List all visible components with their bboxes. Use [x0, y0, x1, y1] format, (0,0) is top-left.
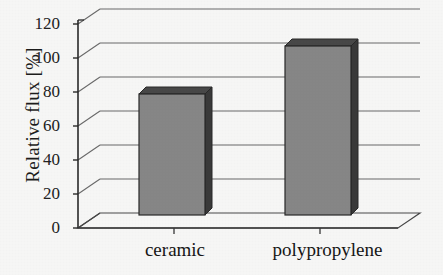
bar-polypropylene[interactable]	[285, 39, 358, 215]
bar-ceramic-side-face	[205, 87, 212, 215]
category-label-polypropylene: polypropylene	[240, 240, 415, 259]
category-label-ceramic: ceramic	[110, 240, 240, 259]
chart-canvas	[0, 0, 443, 275]
bar-chart: Relative flux [%] 120 100 80 60 40 20 0 …	[0, 0, 443, 275]
depth-connector-20	[78, 179, 100, 194]
depth-connector-40	[78, 145, 100, 160]
y-axis	[73, 20, 84, 228]
bar-ceramic-front-face	[139, 94, 205, 215]
depth-connector-100	[78, 43, 100, 58]
chart-floor	[78, 213, 420, 228]
bar-polypropylene-front-face	[285, 46, 351, 215]
bar-polypropylene-side-face	[351, 39, 358, 215]
y-tick-label-40: 40	[16, 151, 60, 168]
y-tick-label-20: 20	[16, 185, 60, 202]
bar-ceramic-top-face	[139, 87, 212, 94]
y-tick-label-80: 80	[16, 83, 60, 100]
y-tick-label-100: 100	[16, 49, 60, 66]
bar-polypropylene-top-face	[285, 39, 358, 46]
depth-connector-80	[78, 77, 100, 92]
y-tick-label-60: 60	[16, 117, 60, 134]
depth-connector-120	[78, 9, 100, 24]
y-tick-label-120: 120	[16, 15, 60, 32]
bar-ceramic[interactable]	[139, 87, 212, 215]
depth-connector-group	[78, 9, 100, 228]
depth-connector-60	[78, 111, 100, 126]
y-tick-label-0: 0	[16, 219, 60, 236]
x-axis	[78, 228, 398, 234]
